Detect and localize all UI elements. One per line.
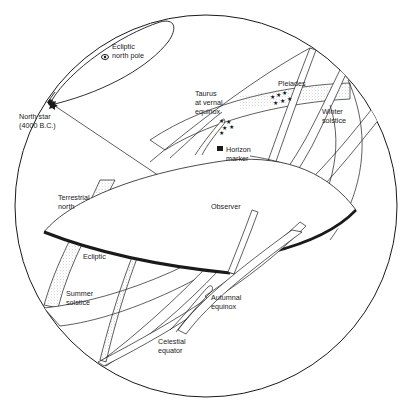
label-line: Observer [211, 202, 241, 211]
label-terrestrial-north: Terrestrial north [58, 193, 90, 211]
svg-text:★: ★ [219, 129, 224, 136]
label-line: Autumnal [211, 293, 241, 302]
horizon-marker-icon [217, 146, 223, 151]
label-line: solstice [322, 116, 346, 125]
label-line: Pleiades [278, 79, 306, 88]
label-line: north [58, 202, 90, 211]
label-line: Winter [322, 107, 346, 116]
label-line: Ecliptic [83, 252, 106, 261]
svg-text:★: ★ [280, 97, 285, 104]
label-line: equator [158, 346, 186, 355]
label-ecliptic-north-pole: Ecliptic north pole [112, 42, 144, 60]
label-north-star: North star (4000 B.C.) [19, 112, 56, 130]
label-line: north pole [112, 51, 144, 60]
label-ecliptic: Ecliptic [83, 252, 106, 261]
label-line: Terrestrial [58, 193, 90, 202]
label-taurus: Taurus at vernal equinox [195, 89, 223, 116]
label-line: at vernal [195, 98, 223, 107]
label-line: equinox [195, 107, 223, 116]
svg-text:★: ★ [287, 95, 292, 102]
svg-text:★: ★ [229, 123, 234, 130]
label-summer-solstice: Summer solstice [66, 289, 93, 307]
label-pleiades: Pleiades [278, 79, 306, 88]
label-line: Taurus [195, 89, 223, 98]
svg-text:★: ★ [219, 117, 224, 124]
label-line: solstice [66, 298, 93, 307]
label-line: Horizon [226, 145, 251, 154]
label-winter-solstice: Winter solstice [322, 107, 346, 125]
label-line: marker [226, 154, 251, 163]
label-line: Summer [66, 289, 93, 298]
label-line: Ecliptic [112, 42, 144, 51]
label-line: equinox [211, 302, 241, 311]
label-horizon-marker: Horizon marker [226, 145, 251, 163]
svg-text:★: ★ [273, 99, 278, 106]
label-line: North star [19, 112, 56, 121]
label-autumnal-equinox: Autumnal equinox [211, 293, 241, 311]
label-line: (4000 B.C.) [19, 121, 56, 130]
label-line: Celestial [158, 337, 186, 346]
label-celestial-equator: Celestial equator [158, 337, 186, 355]
label-observer: Observer [211, 202, 241, 211]
